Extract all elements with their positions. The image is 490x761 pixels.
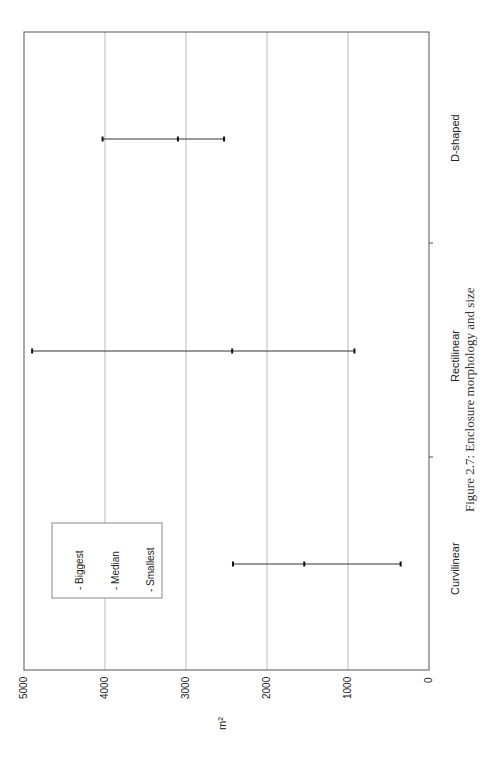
biggest-marker: [31, 349, 33, 354]
y-tick-label: 0: [423, 677, 434, 683]
legend-item-median: - Median: [110, 551, 121, 590]
median-marker: [177, 137, 179, 142]
biggest-marker: [232, 562, 234, 567]
smallest-marker: [223, 137, 225, 142]
biggest-marker: [102, 137, 104, 142]
smallest-marker: [400, 562, 402, 567]
y-tick-label: 3000: [180, 677, 191, 699]
error-bars: [31, 137, 402, 567]
y-tick-label: 4000: [99, 677, 110, 699]
category-label-curvilinear: Curvilinear: [449, 543, 461, 596]
category-label-d-shaped: D-shaped: [449, 114, 461, 162]
legend-item-smallest: - Smallest: [145, 548, 156, 592]
chart-canvas: [0, 0, 490, 761]
figure-caption: Figure 2.7: Enclosure morphology and siz…: [462, 287, 478, 512]
category-ticks: [429, 243, 433, 457]
category-label-rectilinear: Rectilinear: [449, 330, 461, 382]
smallest-marker: [353, 349, 355, 354]
y-tick-label: 5000: [18, 677, 29, 699]
y-axis-title: m²: [216, 717, 228, 730]
y-tick-label: 2000: [261, 677, 272, 699]
y-tick-label: 1000: [342, 677, 353, 699]
median-marker: [303, 562, 305, 567]
median-marker: [231, 349, 233, 354]
legend-item-biggest: - Biggest: [74, 551, 85, 590]
